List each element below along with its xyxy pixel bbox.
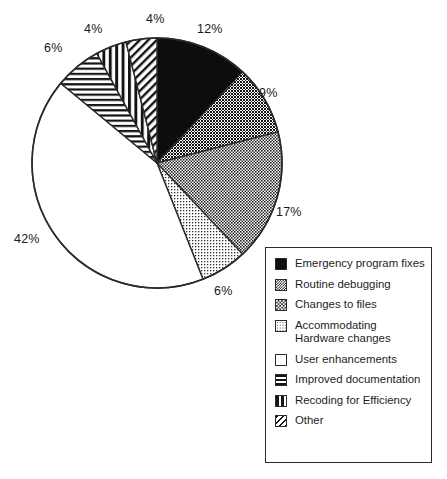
pie-label-other: 4% [146, 12, 164, 26]
pie-label-emergency: 12% [197, 22, 223, 36]
pie-label-user: 42% [14, 232, 40, 246]
legend-item-label: Routine debugging [295, 278, 391, 292]
legend-swatch-icon [275, 258, 287, 270]
legend-item: Improved documentation [275, 373, 431, 387]
pie-label-routine: 9% [259, 86, 277, 100]
legend-item-label: Recoding for Efficiency [295, 394, 411, 408]
legend-item: Recoding for Efficiency [275, 394, 431, 408]
legend-item-label: Emergency program fixes [295, 257, 425, 271]
pie-slices-group [32, 38, 282, 288]
pie-label-hardware: 6% [214, 284, 232, 298]
legend-item: Other [275, 414, 431, 428]
legend-item-label: Improved documentation [295, 373, 420, 387]
pie-label-documentation: 6% [44, 41, 62, 55]
legend-item: User enhancements [275, 353, 431, 367]
legend-swatch-icon [275, 374, 287, 386]
legend-swatch-icon [275, 299, 287, 311]
legend-item: Accommodating Hardware changes [275, 319, 431, 346]
legend-item-label: Changes to files [295, 298, 377, 312]
legend-swatch-icon [275, 279, 287, 291]
pie-chart-figure: 12% 9% 17% 6% 42% 6% 4% 4% Emergency pro… [0, 0, 447, 479]
legend-item-label: User enhancements [295, 353, 397, 367]
legend-swatch-icon [275, 354, 287, 366]
legend-item: Changes to files [275, 298, 431, 312]
legend-swatch-icon [275, 395, 287, 407]
chart-legend: Emergency program fixesRoutine debugging… [265, 247, 432, 463]
legend-swatch-icon [275, 415, 287, 427]
legend-item-label: Accommodating Hardware changes [295, 319, 427, 346]
legend-swatch-icon [275, 320, 287, 332]
pie-label-recoding: 4% [84, 22, 102, 36]
pie-label-changes: 17% [276, 205, 302, 219]
legend-item: Routine debugging [275, 278, 431, 292]
legend-item-label: Other [295, 414, 324, 428]
legend-item: Emergency program fixes [275, 257, 431, 271]
